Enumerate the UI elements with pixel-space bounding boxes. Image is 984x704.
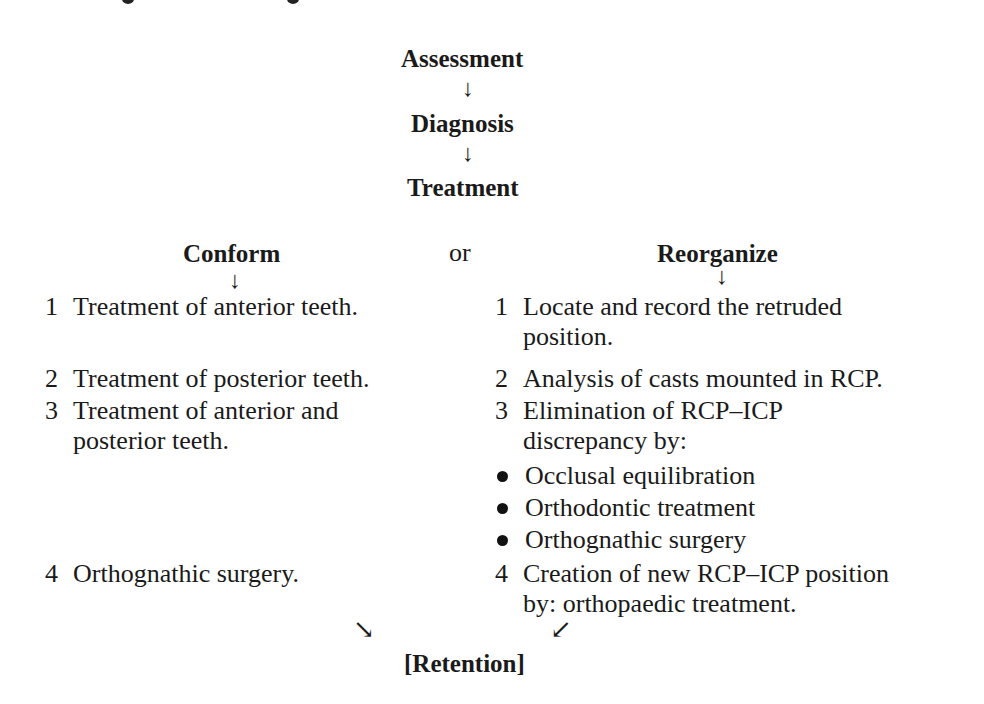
- item-number: 4: [495, 559, 523, 589]
- result-retention: [Retention]: [404, 650, 525, 678]
- bullet-icon: [497, 503, 508, 514]
- item-text: Creation of new RCP–ICP position: [523, 559, 889, 588]
- item-text: Treatment of anterior and: [73, 396, 338, 425]
- item-text: Orthognathic surgery.: [73, 559, 299, 588]
- arrow-down-icon: ↓: [462, 141, 474, 165]
- sub-bullet-item: Orthognathic surgery: [495, 525, 746, 555]
- item-text-continued: position.: [495, 322, 842, 352]
- bullet-text: Orthognathic surgery: [525, 525, 746, 554]
- bullet-icon: [497, 535, 508, 546]
- item-number: 2: [495, 364, 523, 394]
- step-diagnosis: Diagnosis: [411, 110, 514, 138]
- cropped-glyph-fragment: [287, 0, 299, 4]
- branch-title-conform: Conform: [183, 240, 280, 268]
- item-text: Treatment of posterior teeth.: [73, 364, 370, 393]
- cropped-glyph-fragment: [122, 0, 134, 4]
- arrow-down-right-icon: ↘: [353, 617, 375, 643]
- item-number: 1: [495, 292, 523, 322]
- arrow-down-icon: ↓: [229, 268, 241, 292]
- branch-connector-or: or: [449, 238, 471, 268]
- reorganize-item-4: 4Creation of new RCP–ICP position by: or…: [495, 559, 889, 619]
- bullet-text: Orthodontic treatment: [525, 493, 755, 522]
- conform-item-1: 1Treatment of anterior teeth.: [45, 292, 358, 322]
- conform-item-4: 4Orthognathic surgery.: [45, 559, 299, 589]
- item-number: 3: [45, 396, 73, 426]
- item-text: Treatment of anterior teeth.: [73, 292, 358, 321]
- step-assessment: Assessment: [401, 45, 523, 73]
- arrow-down-icon: ↓: [462, 76, 474, 100]
- reorganize-item-2: 2Analysis of casts mounted in RCP.: [495, 364, 883, 394]
- item-text-continued: discrepancy by:: [495, 426, 783, 456]
- reorganize-item-1: 1Locate and record the retruded position…: [495, 292, 842, 352]
- arrow-down-icon: ↓: [716, 264, 728, 288]
- step-treatment: Treatment: [407, 174, 519, 202]
- item-text-continued: posterior teeth.: [45, 426, 338, 456]
- item-text: Elimination of RCP–ICP: [523, 396, 783, 425]
- item-number: 1: [45, 292, 73, 322]
- bullet-text: Occlusal equilibration: [525, 461, 755, 490]
- arrow-down-left-icon: ↙: [550, 617, 572, 643]
- item-number: 4: [45, 559, 73, 589]
- sub-bullet-item: Orthodontic treatment: [495, 493, 755, 523]
- reorganize-item-3: 3Elimination of RCP–ICP discrepancy by:: [495, 396, 783, 456]
- conform-item-2: 2Treatment of posterior teeth.: [45, 364, 370, 394]
- bullet-icon: [497, 471, 508, 482]
- item-text: Analysis of casts mounted in RCP.: [523, 364, 883, 393]
- conform-item-3: 3Treatment of anterior and posterior tee…: [45, 396, 338, 456]
- sub-bullet-item: Occlusal equilibration: [495, 461, 755, 491]
- item-number: 2: [45, 364, 73, 394]
- item-number: 3: [495, 396, 523, 426]
- item-text: Locate and record the retruded: [523, 292, 842, 321]
